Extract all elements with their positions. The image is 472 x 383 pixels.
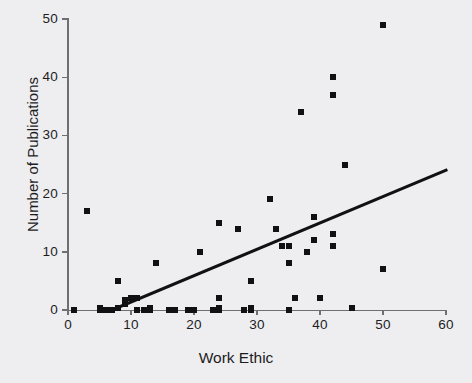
data-point — [122, 297, 128, 303]
data-point — [115, 278, 121, 284]
data-point — [248, 305, 254, 311]
x-tick-mark — [319, 310, 321, 315]
x-tick-label: 50 — [363, 317, 403, 332]
data-point — [166, 307, 172, 313]
data-point — [103, 307, 109, 313]
data-point — [216, 305, 222, 311]
data-point — [71, 307, 77, 313]
data-point — [235, 226, 241, 232]
data-point — [286, 243, 292, 249]
x-tick-label: 40 — [300, 317, 340, 332]
data-point — [84, 208, 90, 214]
x-tick-mark — [382, 310, 384, 315]
y-tick-label: 0 — [24, 302, 58, 317]
data-point — [311, 237, 317, 243]
y-tick-mark — [62, 193, 67, 195]
x-tick-label: 10 — [111, 317, 151, 332]
data-point — [311, 214, 317, 220]
data-point — [380, 22, 386, 28]
data-point — [153, 260, 159, 266]
y-axis-title: Number of Publications — [24, 35, 41, 275]
x-tick-label: 20 — [174, 317, 214, 332]
data-point — [298, 109, 304, 115]
data-point — [279, 243, 285, 249]
data-point — [342, 162, 348, 168]
y-tick-mark — [62, 77, 67, 79]
data-point — [109, 307, 115, 313]
data-point — [128, 295, 134, 301]
data-point — [349, 305, 355, 311]
data-point — [304, 249, 310, 255]
data-point — [191, 307, 197, 313]
data-point — [330, 231, 336, 237]
x-tick-mark — [445, 310, 447, 315]
y-tick-mark — [62, 135, 67, 137]
data-point — [267, 196, 273, 202]
data-point — [185, 307, 191, 313]
data-point — [134, 295, 140, 301]
x-tick-mark — [67, 310, 69, 315]
x-tick-mark — [130, 310, 132, 315]
data-point — [134, 307, 140, 313]
data-point — [216, 295, 222, 301]
data-point — [330, 92, 336, 98]
data-point — [330, 243, 336, 249]
x-tick-label: 60 — [426, 317, 466, 332]
plot-area — [68, 19, 446, 310]
data-point — [286, 307, 292, 313]
data-point — [273, 226, 279, 232]
x-tick-label: 0 — [48, 317, 88, 332]
data-point — [292, 295, 298, 301]
data-point — [147, 305, 153, 311]
data-point — [330, 74, 336, 80]
data-point — [380, 266, 386, 272]
data-point — [286, 260, 292, 266]
x-tick-mark — [256, 310, 258, 315]
x-axis-title: Work Ethic — [0, 349, 472, 367]
data-point — [172, 307, 178, 313]
data-point — [317, 295, 323, 301]
data-point — [248, 278, 254, 284]
y-tick-mark — [62, 18, 67, 20]
data-point — [210, 307, 216, 313]
regression-line — [68, 19, 446, 310]
data-point — [115, 305, 121, 311]
y-tick-mark — [62, 251, 67, 253]
y-tick-mark — [62, 309, 67, 311]
data-point — [216, 220, 222, 226]
x-tick-label: 30 — [237, 317, 277, 332]
data-point — [241, 307, 247, 313]
y-tick-label: 50 — [24, 11, 58, 26]
data-point — [141, 307, 147, 313]
data-point — [97, 305, 103, 311]
scatter-plot-figure: 01020304050 0102030405060 Number of Publ… — [0, 0, 472, 383]
data-point — [197, 249, 203, 255]
